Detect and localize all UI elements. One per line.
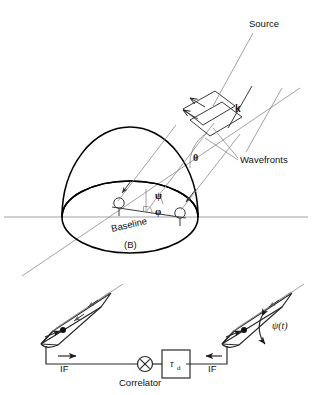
delay-line-box[interactable]: [162, 350, 190, 378]
wavefronts-label: Wavefronts: [240, 154, 288, 165]
theta-label: θ: [193, 152, 198, 163]
if-signal-path-left: [46, 346, 138, 364]
psi-of-t-label: ψ(t): [272, 320, 288, 332]
wavefront-direction-arrow-2: [183, 110, 198, 119]
if-label-left: IF: [60, 363, 69, 374]
hemisphere-geometry-panel: Source k Wavefronts θ ψ φ Baseline (B): [4, 18, 308, 276]
source-label: Source: [249, 18, 279, 29]
multiplier-circle-icon[interactable]: [138, 357, 153, 372]
baseline-label: Baseline: [110, 215, 148, 234]
hemisphere-dome: [62, 127, 198, 217]
wavefront-direction-arrow-1: [190, 98, 205, 107]
baseline-symbol-label: (B): [124, 239, 137, 250]
phi-label: φ: [155, 206, 161, 217]
delay-tau-label: τ: [170, 358, 174, 369]
horizon-back-rim: [62, 181, 198, 217]
wave-vector-label: k: [235, 103, 241, 114]
left-incoming-ray-2: [51, 292, 110, 332]
figure-root: Source k Wavefronts θ ψ φ Baseline (B): [0, 0, 312, 395]
delay-subscript-label: d: [177, 364, 181, 372]
if-label-right: IF: [208, 363, 217, 374]
right-ray-arrow-1: [269, 300, 279, 307]
psi-of-t-rotation-arc: [259, 316, 265, 344]
left-ray-arrow-1: [88, 300, 98, 307]
ray-arrow-left: [122, 181, 131, 193]
psi-label: ψ: [155, 190, 162, 201]
correlator-block-diagram: IF IF Correlator τ d ψ(t): [41, 284, 304, 388]
incoming-ray-left: [118, 125, 176, 201]
baseline-extension-line: [22, 88, 300, 276]
if-signal-path-right: [186, 346, 227, 364]
source-ray-secondary: [246, 88, 282, 152]
correlator-label: Correlator: [119, 377, 161, 388]
interferometer-diagram: Source k Wavefronts θ ψ φ Baseline (B): [0, 0, 312, 395]
